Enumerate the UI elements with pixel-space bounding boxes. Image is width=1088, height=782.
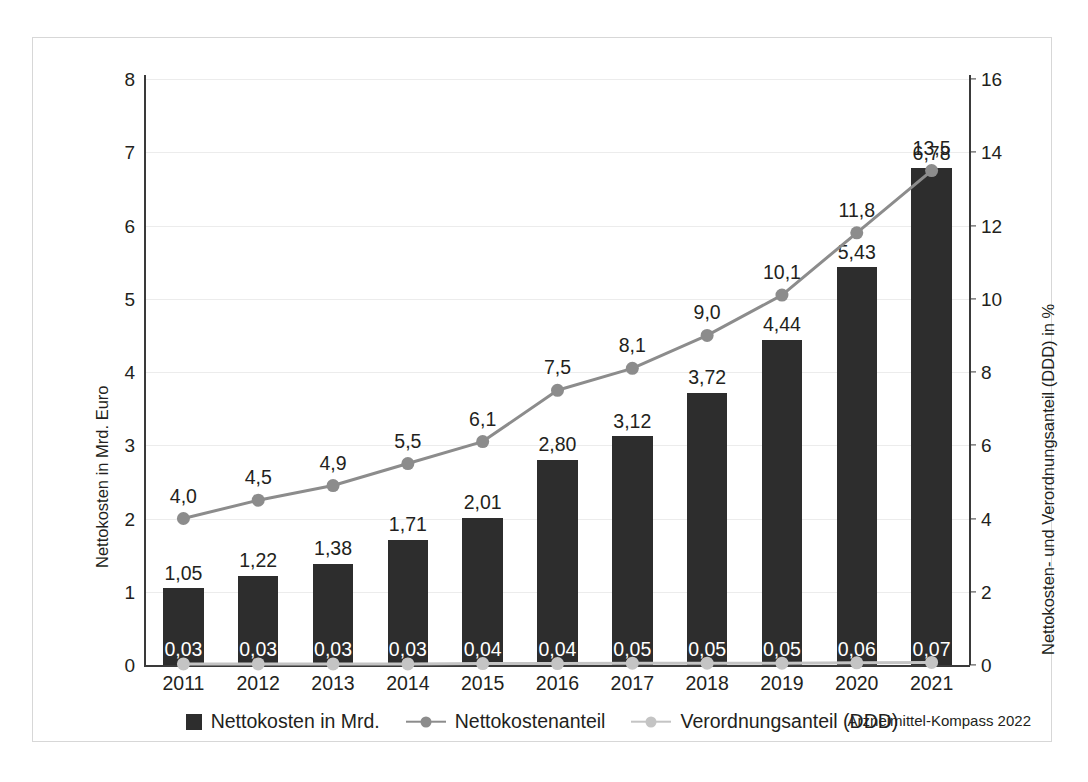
bar: 2,010,04 [462, 518, 502, 665]
line-point-marker [551, 384, 564, 397]
bar-value-label: 1,05 [164, 564, 202, 584]
legend-square-icon [186, 714, 202, 730]
left-tick-label: 7 [124, 143, 135, 162]
line-point-marker [327, 479, 340, 492]
line-point-marker [701, 329, 714, 342]
gridline [146, 152, 969, 153]
line-value-label: 4,9 [319, 453, 346, 473]
ddd-value-label: 0,05 [763, 640, 801, 660]
right-tick-label: 0 [981, 656, 992, 675]
x-tick-label: 2017 [611, 674, 654, 694]
legend-item: Nettokostenanteil [406, 710, 606, 733]
chart-figure: 012345678 0246810121416 1,050,031,220,03… [32, 37, 1052, 742]
line-value-label: 4,5 [245, 468, 272, 488]
bar: 1,710,03 [388, 540, 428, 665]
x-tick-label: 2014 [386, 674, 429, 694]
x-tick-label: 2019 [760, 674, 803, 694]
x-tick-label: 2012 [237, 674, 280, 694]
bar-value-label: 4,44 [763, 315, 801, 335]
x-tick-label: 2016 [536, 674, 579, 694]
plot-area: 012345678 0246810121416 1,050,031,220,03… [146, 79, 969, 665]
right-tick-label: 4 [981, 509, 992, 528]
right-tick-mark [969, 298, 976, 299]
line-value-label: 7,5 [544, 358, 571, 378]
bar-value-label: 1,71 [389, 515, 427, 535]
ddd-value-label: 0,03 [239, 640, 277, 660]
left-tick-label: 5 [124, 289, 135, 308]
left-tick-label: 3 [124, 436, 135, 455]
gridline [146, 79, 969, 80]
source-note: Arzneimittel-Kompass 2022 [848, 712, 1031, 729]
right-tick-label: 6 [981, 436, 992, 455]
line-value-label: 13,5 [913, 138, 951, 158]
right-axis-title: Nettokosten- und Verordnungsanteil (DDD)… [1039, 304, 1058, 655]
line-value-label: 10,1 [763, 263, 801, 283]
bar: 3,720,05 [687, 393, 727, 665]
left-tick-label: 8 [124, 70, 135, 89]
left-tick-label: 2 [124, 509, 135, 528]
right-tick-mark [969, 664, 976, 665]
ddd-value-label: 0,07 [913, 640, 951, 660]
ddd-value-label: 0,05 [613, 640, 651, 660]
ddd-value-label: 0,03 [164, 640, 202, 660]
legend-label: Nettokosten in Mrd. [211, 710, 380, 733]
bar: 1,380,03 [313, 564, 353, 665]
left-tick-label: 1 [124, 582, 135, 601]
bar-value-label: 5,43 [838, 243, 876, 263]
right-axis-line [969, 75, 971, 665]
left-tick-label: 4 [124, 363, 135, 382]
x-tick-label: 2021 [910, 674, 953, 694]
line-value-label: 6,1 [469, 409, 496, 429]
left-axis-line [144, 75, 146, 665]
left-tick-label: 6 [124, 216, 135, 235]
x-tick-label: 2020 [835, 674, 878, 694]
bar: 1,050,03 [163, 588, 203, 665]
ddd-value-label: 0,03 [314, 640, 352, 660]
bar: 2,800,04 [537, 460, 577, 665]
legend-line-dot-icon [631, 715, 671, 729]
right-tick-label: 2 [981, 582, 992, 601]
line-value-label: 11,8 [839, 200, 876, 220]
right-tick-label: 10 [981, 289, 1002, 308]
line-value-label: 8,1 [619, 336, 646, 356]
line-point-marker [850, 226, 863, 239]
right-tick-mark [969, 591, 976, 592]
legend-item: Nettokosten in Mrd. [186, 710, 380, 733]
bar: 5,430,06 [837, 267, 877, 665]
x-tick-label: 2018 [685, 674, 728, 694]
ddd-value-label: 0,06 [838, 640, 876, 660]
zero-baseline [144, 665, 970, 667]
bar-value-label: 1,38 [314, 539, 352, 559]
right-tick-mark [969, 225, 976, 226]
line-value-label: 9,0 [694, 303, 721, 323]
line-point-marker [252, 494, 265, 507]
bar: 6,780,07 [911, 168, 951, 665]
left-axis-title: Nettokosten in Mrd. Euro [93, 386, 112, 569]
legend-line-dot-icon [406, 715, 446, 729]
gridline [146, 226, 969, 227]
legend-label: Nettokostenanteil [455, 710, 606, 733]
right-tick-mark [969, 371, 976, 372]
ddd-value-label: 0,05 [688, 640, 726, 660]
ddd-value-label: 0,04 [539, 640, 577, 660]
bar-value-label: 2,80 [539, 435, 577, 455]
bar-value-label: 3,12 [613, 412, 651, 432]
right-tick-label: 8 [981, 363, 992, 382]
ddd-value-label: 0,04 [464, 640, 502, 660]
line-value-label: 5,5 [394, 431, 421, 451]
bar-value-label: 2,01 [464, 493, 502, 513]
right-tick-mark [969, 78, 976, 79]
right-tick-label: 16 [981, 70, 1002, 89]
bar-value-label: 3,72 [688, 368, 726, 388]
line-value-label: 4,0 [170, 486, 197, 506]
left-tick-label: 0 [124, 656, 135, 675]
right-tick-label: 14 [981, 143, 1002, 162]
x-tick-label: 2013 [311, 674, 354, 694]
bar: 1,220,03 [238, 576, 278, 665]
right-tick-mark [969, 445, 976, 446]
ddd-value-label: 0,03 [389, 640, 427, 660]
right-tick-label: 12 [981, 216, 1002, 235]
bar-value-label: 1,22 [239, 551, 277, 571]
right-tick-mark [969, 518, 976, 519]
line-point-marker [401, 457, 414, 470]
